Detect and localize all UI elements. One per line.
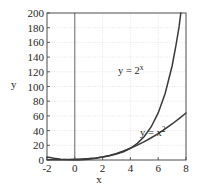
chart-figure: 0 20 40 60 80 100 120 140 160 180 200 -2… — [0, 0, 198, 188]
annotation-exponential-text: y = 2 — [118, 65, 140, 76]
x-tick-label-group: -2 0 2 4 6 8 — [0, 0, 198, 188]
x-tick-label: 6 — [148, 163, 168, 174]
annotation-quadratic-text: y = x — [140, 127, 162, 138]
annotation-exponential: y = 2x — [118, 65, 143, 76]
x-tick-label: 4 — [120, 163, 140, 174]
annotation-exponential-exponent: x — [140, 63, 144, 72]
x-tick-label: 8 — [176, 163, 196, 174]
x-tick-label: 0 — [65, 163, 85, 174]
annotation-quadratic: y = x2 — [140, 127, 165, 138]
y-axis-title: y — [11, 79, 17, 90]
annotation-quadratic-exponent: 2 — [162, 125, 166, 134]
x-tick-label: -2 — [37, 163, 57, 174]
x-axis-title: x — [0, 174, 198, 185]
